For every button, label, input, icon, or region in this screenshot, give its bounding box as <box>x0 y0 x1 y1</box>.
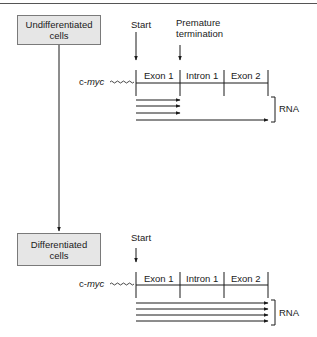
rna-label: RNA <box>279 103 299 114</box>
segment-exon-1: Exon 1 <box>144 70 174 81</box>
upstream-wavy-line <box>110 81 134 83</box>
transcripts-top <box>136 100 268 120</box>
segment-exon-1: Exon 1 <box>144 273 174 284</box>
segment-intron-1: Intron 1 <box>186 273 218 284</box>
diagram-canvas <box>0 0 317 337</box>
upstream-wavy-line <box>110 283 134 285</box>
gene-label: c-myc <box>79 76 104 87</box>
segment-intron-1: Intron 1 <box>186 70 218 81</box>
gene-label: c-myc <box>79 278 104 289</box>
segment-exon-2: Exon 2 <box>231 70 261 81</box>
transcripts-bottom <box>136 303 268 321</box>
rna-label: RNA <box>279 307 299 318</box>
premature-label: Premature <box>176 17 220 28</box>
segment-exon-2: Exon 2 <box>231 273 261 284</box>
start-label: Start <box>131 19 151 30</box>
termination-label: termination <box>176 28 223 39</box>
start-label: Start <box>131 232 151 243</box>
rna-bracket-bottom <box>271 300 275 325</box>
rna-bracket-top <box>271 97 275 122</box>
